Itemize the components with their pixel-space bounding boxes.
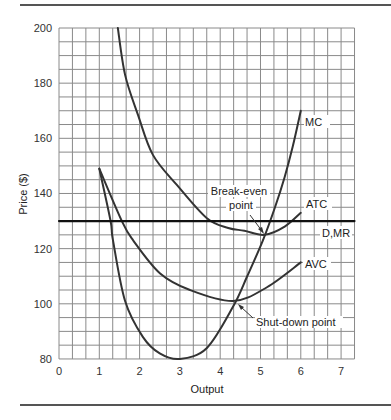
svg-text:4: 4 [217, 365, 223, 377]
label-break-even-2: point [229, 199, 253, 211]
grid [59, 28, 355, 359]
curve-atc [118, 28, 301, 235]
x-axis-ticks: 01234567 [56, 365, 344, 377]
svg-text:100: 100 [34, 298, 52, 310]
svg-text:140: 140 [34, 187, 52, 199]
svg-text:120: 120 [34, 243, 52, 255]
shutdown-arrow-icon [238, 304, 253, 318]
label-avc: AVC [305, 258, 327, 270]
y-axis-ticks: 80100120140160180200 [34, 22, 52, 365]
svg-text:7: 7 [338, 365, 344, 377]
cost-curves-chart: 80100120140160180200 01234567 Price ($) … [0, 0, 391, 420]
label-mc: MC [305, 116, 322, 128]
label-dmr: D,MR [322, 227, 350, 239]
label-atc: ATC [306, 198, 327, 210]
label-shutdown: Shut-down point [256, 316, 336, 328]
svg-text:5: 5 [257, 365, 263, 377]
break-even-arrow-icon [250, 215, 264, 234]
svg-text:0: 0 [56, 365, 62, 377]
y-axis-title: Price ($) [17, 173, 29, 215]
svg-text:80: 80 [40, 353, 52, 365]
svg-text:160: 160 [34, 132, 52, 144]
svg-text:2: 2 [137, 365, 143, 377]
svg-text:6: 6 [298, 365, 304, 377]
svg-text:180: 180 [34, 77, 52, 89]
x-axis-title: Output [190, 383, 223, 395]
label-break-even-1: Break-even [211, 185, 267, 197]
svg-text:3: 3 [177, 365, 183, 377]
svg-text:1: 1 [96, 365, 102, 377]
svg-text:200: 200 [34, 22, 52, 34]
